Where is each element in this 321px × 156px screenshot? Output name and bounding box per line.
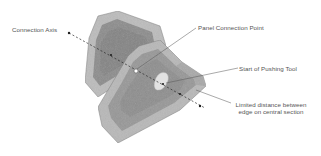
connection-axis-mid-dot	[110, 54, 112, 56]
pushing-tool-dot	[162, 83, 164, 85]
panel-connection-point	[134, 69, 138, 73]
connection-axis-start-dot	[68, 32, 70, 34]
panel-connection-diagram	[0, 0, 321, 156]
label-limited-distance-line1: Limited distance between	[230, 101, 312, 108]
connection-axis-end-dot	[199, 105, 201, 107]
label-start-of-pushing-tool: Start of Pushing Tool	[239, 65, 297, 72]
leader-limited-distance	[196, 90, 231, 103]
label-limited-distance-line2: edge on central section	[230, 108, 312, 115]
label-connection-axis: Connection Axis	[12, 26, 57, 33]
connection-axis-dot-front	[179, 93, 181, 95]
label-panel-connection-point: Panel Connection Point	[198, 24, 264, 31]
label-limited-distance: Limited distance between edge on central…	[230, 101, 312, 115]
